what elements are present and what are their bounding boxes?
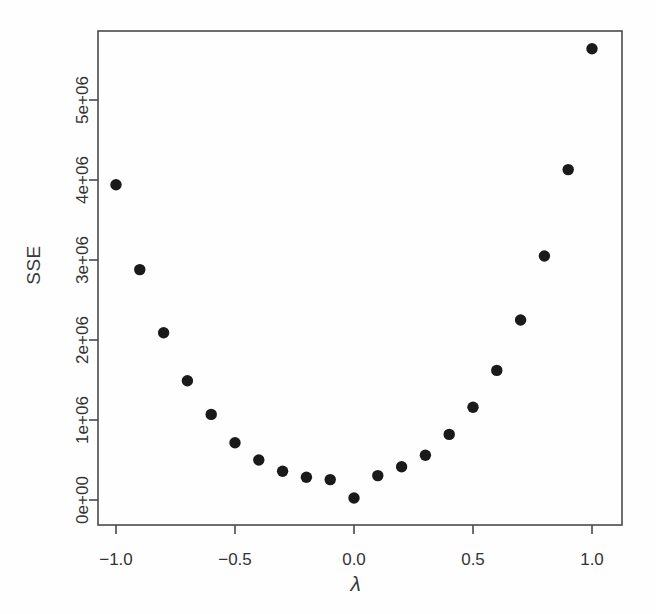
y-tick-label: 4e+06 bbox=[73, 156, 92, 204]
data-point: λ=-0.2, SSE=285000 bbox=[301, 472, 312, 483]
x-tick-label: −0.5 bbox=[218, 550, 252, 569]
data-point: λ=-0.9, SSE=2880000 bbox=[134, 264, 145, 275]
data-point: λ=0.2, SSE=415000 bbox=[396, 461, 407, 472]
y-axis-tick-labels: 0e+001e+062e+063e+064e+065e+06 bbox=[73, 76, 92, 524]
x-tick-label: −1.0 bbox=[99, 550, 133, 569]
x-tick-label: 1.0 bbox=[580, 550, 604, 569]
x-axis-title: λ bbox=[330, 572, 382, 596]
data-point: λ=0.4, SSE=820000 bbox=[444, 429, 455, 440]
plot-frame bbox=[98, 31, 622, 525]
data-point: λ=-0.8, SSE=2090000 bbox=[158, 327, 169, 338]
y-tick-label: 1e+06 bbox=[73, 396, 92, 444]
x-tick-label: 0.0 bbox=[342, 550, 366, 569]
data-point: λ=-1.0, SSE=3940000 bbox=[110, 179, 121, 190]
x-tick-label: 0.5 bbox=[461, 550, 485, 569]
y-tick-label: 3e+06 bbox=[73, 236, 92, 284]
data-point: λ=-0.3, SSE=360000 bbox=[277, 466, 288, 477]
data-point: λ=1.0, SSE=5640000 bbox=[586, 43, 597, 54]
data-point: λ=-0.1, SSE=255000 bbox=[325, 474, 336, 485]
data-point: λ=-0.6, SSE=1070000 bbox=[206, 409, 217, 420]
data-point: λ=0.5, SSE=1160000 bbox=[467, 402, 478, 413]
data-point: λ=0.1, SSE=305000 bbox=[372, 470, 383, 481]
y-tick-label: 2e+06 bbox=[73, 316, 92, 364]
data-point-series: λ=-1.0, SSE=3940000λ=-0.9, SSE=2880000λ=… bbox=[110, 43, 597, 504]
data-point: λ=-0.4, SSE=500000 bbox=[253, 454, 264, 465]
data-point: λ=0.8, SSE=3050000 bbox=[539, 250, 550, 261]
data-point: λ=-0.7, SSE=1490000 bbox=[182, 375, 193, 386]
x-axis-ticks bbox=[116, 525, 592, 534]
data-point: λ=0.0, SSE=25000 bbox=[348, 492, 359, 503]
x-axis-tick-labels: −1.0−0.50.00.51.0 bbox=[99, 550, 604, 569]
plot-canvas: 0e+001e+062e+063e+064e+065e+06 −1.0−0.50… bbox=[0, 0, 656, 614]
plot-box bbox=[98, 31, 622, 525]
data-point: λ=-0.5, SSE=715000 bbox=[229, 437, 240, 448]
y-axis-title: SSE bbox=[23, 243, 45, 287]
data-point: λ=0.3, SSE=560000 bbox=[420, 450, 431, 461]
y-tick-label: 5e+06 bbox=[73, 76, 92, 124]
data-point: λ=0.7, SSE=2250000 bbox=[515, 314, 526, 325]
data-point: λ=0.6, SSE=1620000 bbox=[491, 365, 502, 376]
scatter-plot-figure: 0e+001e+062e+063e+064e+065e+06 −1.0−0.50… bbox=[0, 0, 656, 614]
y-tick-label: 0e+00 bbox=[73, 476, 92, 524]
data-point: λ=0.9, SSE=4130000 bbox=[563, 164, 574, 175]
